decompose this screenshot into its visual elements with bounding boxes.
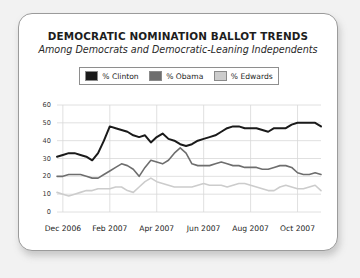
y-tick-label: 30 — [35, 155, 51, 163]
x-tick-label: Jun 2007 — [179, 224, 229, 233]
x-tick-label: Oct 2007 — [273, 224, 323, 233]
x-tick-label: Apr 2007 — [132, 224, 182, 233]
y-tick-label: 20 — [35, 172, 51, 180]
x-tick-label: Dec 2006 — [38, 224, 88, 233]
y-tick-label: 50 — [35, 119, 51, 127]
x-tick-label: Feb 2007 — [85, 224, 135, 233]
line-chart-svg — [19, 14, 339, 252]
x-tick-label: Aug 2007 — [226, 224, 276, 233]
plot-area: 0102030405060 Dec 2006Feb 2007Apr 2007Ju… — [19, 14, 339, 252]
y-tick-label: 60 — [35, 101, 51, 109]
page-background: DEMOCRATIC NOMINATION BALLOT TRENDS Amon… — [0, 0, 360, 278]
y-tick-label: 10 — [35, 190, 51, 198]
chart-card: DEMOCRATIC NOMINATION BALLOT TRENDS Amon… — [18, 13, 338, 251]
y-tick-label: 40 — [35, 137, 51, 145]
y-tick-label: 0 — [35, 208, 51, 216]
